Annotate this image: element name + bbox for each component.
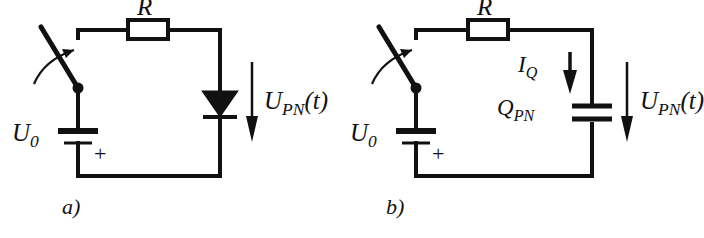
qpn-label: QPN: [497, 96, 534, 124]
iq-arrow-head: [563, 70, 577, 94]
upn-label-b-arg: (t): [680, 87, 704, 114]
upn-label-a-sub: PN: [282, 99, 304, 119]
panel-caption-a: a): [62, 196, 80, 218]
upn-label-b: UPN(t): [640, 88, 704, 119]
source-label-b-sub: 0: [368, 131, 377, 151]
iq-label-sub: Q: [526, 64, 538, 81]
wire-switch-contact-step: [78, 30, 118, 38]
upn-label-a-main: U: [264, 87, 282, 114]
upn-arrow-head-b: [621, 116, 633, 142]
source-label-a: U0: [12, 120, 39, 151]
resistor-body: [128, 20, 168, 39]
circuit-a-svg: [0, 0, 350, 238]
resistor-body-b: [468, 20, 508, 39]
circuit-panel-b: R U0 + IQ QPN UPN(t) b): [350, 0, 701, 238]
source-label-a-main: U: [12, 119, 30, 146]
source-polarity-plus-b: +: [432, 143, 444, 165]
upn-label-b-main: U: [640, 87, 658, 114]
resistor-label-b: R: [477, 0, 492, 19]
iq-label-main: I: [518, 52, 526, 77]
source-polarity-plus-a: +: [94, 143, 106, 165]
iq-label: IQ: [518, 53, 537, 81]
diode-triangle: [204, 92, 236, 115]
qpn-label-sub: PN: [514, 107, 535, 124]
qpn-label-main: Q: [497, 95, 514, 120]
source-label-b-main: U: [350, 119, 368, 146]
upn-label-a-arg: (t): [304, 87, 328, 114]
circuit-panel-a: R U0 + UPN(t) a): [0, 0, 350, 238]
panel-caption-b: b): [386, 196, 404, 218]
upn-label-b-sub: PN: [658, 99, 680, 119]
source-label-b: U0: [350, 120, 377, 151]
source-label-a-sub: 0: [30, 131, 39, 151]
resistor-label-a: R: [137, 0, 152, 19]
wire-switch-contact-step-b: [416, 30, 456, 38]
upn-label-a: UPN(t): [264, 88, 328, 119]
upn-arrow-head-a: [246, 116, 258, 142]
